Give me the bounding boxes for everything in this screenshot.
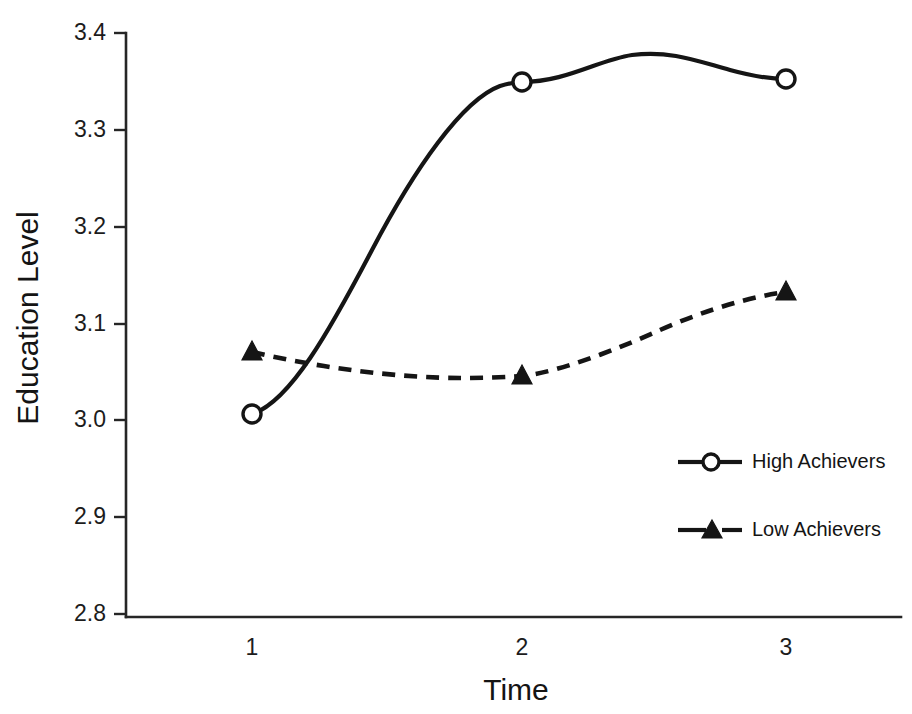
series-line-low-achievers <box>252 292 786 378</box>
y-axis-ticks: 3.4 3.3 3.2 3.1 3.0 2.9 2.8 <box>74 19 126 626</box>
legend-item-high-achievers: High Achievers <box>678 450 885 472</box>
x-tick-label: 3 <box>780 634 793 660</box>
y-tick-label: 2.8 <box>74 600 106 626</box>
legend-label-low-achievers: Low Achievers <box>752 518 881 540</box>
legend-item-low-achievers: Low Achievers <box>678 518 881 540</box>
data-point-marker-circle <box>243 405 261 423</box>
line-chart-svg: Education Level 3.4 3.3 3.2 3.1 3.0 2.9 … <box>0 0 912 714</box>
chart-legend: High Achievers Low Achievers <box>678 450 885 540</box>
data-point-marker-circle <box>777 70 795 88</box>
y-tick-label: 3.1 <box>74 310 106 336</box>
x-axis-title: Time <box>483 673 549 706</box>
y-tick-label: 3.4 <box>74 19 106 45</box>
x-tick-label: 1 <box>246 634 259 660</box>
data-point-marker-circle <box>513 73 531 91</box>
data-point-marker-triangle <box>242 341 262 360</box>
legend-marker-circle <box>703 454 719 470</box>
x-tick-label: 2 <box>516 634 529 660</box>
legend-label-high-achievers: High Achievers <box>752 450 885 472</box>
y-tick-label: 3.3 <box>74 116 106 142</box>
y-tick-label: 3.2 <box>74 213 106 239</box>
y-tick-label: 3.0 <box>74 406 106 432</box>
x-axis-ticks: 1 2 3 <box>246 634 793 660</box>
y-axis-title: Education Level <box>11 211 44 425</box>
data-point-marker-triangle <box>776 281 796 300</box>
y-tick-label: 2.9 <box>74 503 106 529</box>
chart-figure: Education Level 3.4 3.3 3.2 3.1 3.0 2.9 … <box>0 0 912 714</box>
series-line-high-achievers <box>252 54 786 414</box>
y-axis-title-group: Education Level <box>11 211 44 425</box>
